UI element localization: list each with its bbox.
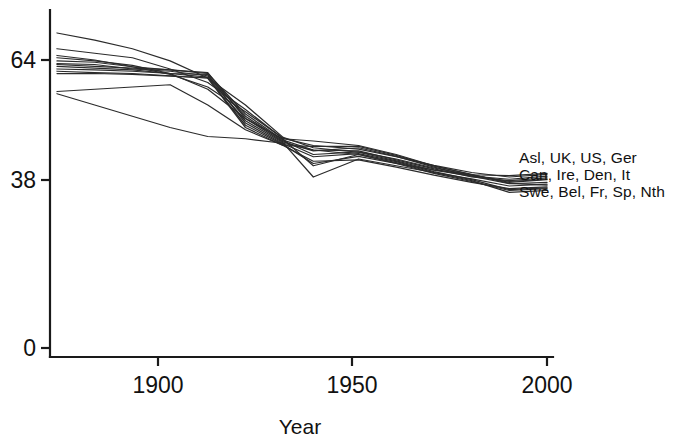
y-tick-label-0: 0 — [23, 335, 36, 361]
series-label-group-2: Can, Ire, Den, It — [519, 166, 631, 183]
series-label-group-1: Asl, UK, US, Ger — [519, 149, 637, 166]
series-line — [57, 85, 547, 185]
series-label-group-3: Swe, Bel, Fr, Sp, Nth — [519, 183, 665, 200]
y-tick-label-38: 38 — [10, 167, 36, 193]
x-axis-title: Year — [279, 415, 321, 438]
y-tick-label-64: 64 — [10, 47, 36, 73]
series-line — [57, 58, 547, 176]
chart-figure: 64 38 0 1900 1950 2000 Year Asl, UK, US,… — [0, 0, 686, 446]
series-line — [57, 66, 547, 186]
series-line — [57, 74, 547, 189]
series-line — [57, 65, 547, 184]
series-group — [57, 33, 547, 192]
line-chart-canvas: 64 38 0 1900 1950 2000 Year Asl, UK, US,… — [0, 0, 686, 446]
x-tick-label-2000: 2000 — [521, 372, 572, 398]
series-line — [57, 33, 547, 179]
x-tick-label-1900: 1900 — [132, 372, 183, 398]
x-tick-label-1950: 1950 — [326, 372, 377, 398]
series-line — [57, 61, 547, 181]
